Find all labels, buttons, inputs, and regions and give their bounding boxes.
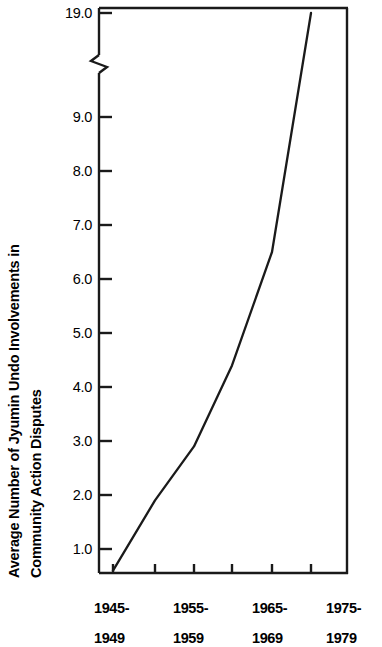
x-tick-label-1945-1949-bottom: 1949: [94, 631, 129, 646]
axis-break-icon: [91, 55, 107, 73]
x-tick-label-1955-1959-bottom: 1959: [173, 631, 208, 646]
axis-frame: [99, 8, 348, 574]
x-tick-label-1975-1979-bottom: 1979: [326, 631, 361, 646]
data-line-series-1: [113, 13, 311, 571]
x-tick-marks: [113, 564, 311, 573]
x-tick-label-1965-1969-bottom: 1969: [252, 631, 287, 646]
y-tick-marks: [99, 13, 112, 549]
